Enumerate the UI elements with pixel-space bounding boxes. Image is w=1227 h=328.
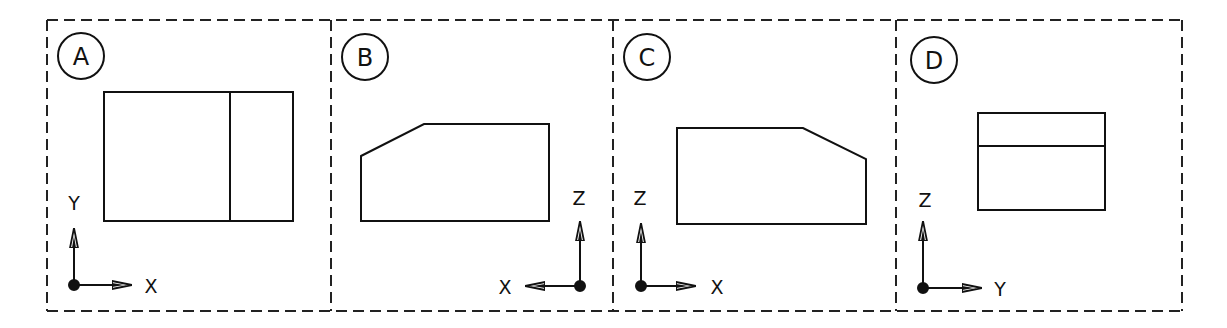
panel-label: C [639,44,656,72]
origin-dot-icon [636,281,646,291]
view-shape [978,113,1105,210]
origin-dot-icon [575,281,585,291]
axis-triad [526,222,585,291]
axis-label-horizontal: X [144,275,157,297]
origin-dot-icon [918,283,928,293]
view-shape [104,92,293,221]
axis-label-horizontal: Y [993,278,1006,300]
axis-triad [69,229,131,290]
orthographic-views-diagram: A Y X B Z X C Z [0,0,1227,328]
axis-label-vertical: Z [633,187,646,209]
panel-borders [47,20,1182,311]
panel-d: D Z Y [911,37,1105,300]
panel-b: B Z X [342,34,586,298]
axis-label-horizontal: X [498,276,511,298]
view-shape [677,128,866,224]
view-shape [361,124,549,221]
axis-triad [918,222,981,293]
panel-a: A Y X [58,33,293,297]
panel-c: C Z X [624,34,866,298]
axis-triad [636,224,695,291]
panel-label: A [73,43,90,71]
axis-label-vertical: Z [918,189,931,211]
axis-label-horizontal: X [710,276,723,298]
panel-label: D [925,47,943,75]
panel-label: B [357,44,373,72]
axis-label-vertical: Z [572,187,585,209]
axis-label-vertical: Y [67,192,80,214]
origin-dot-icon [69,280,79,290]
